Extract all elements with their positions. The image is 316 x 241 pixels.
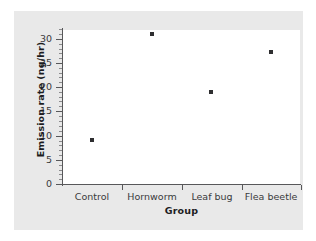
y-minor-tick xyxy=(59,126,62,127)
data-point-hornworm xyxy=(150,32,154,36)
y-minor-tick xyxy=(59,53,62,54)
y-tick-25 xyxy=(56,63,62,64)
x-tick-label-hornworm: Hornworm xyxy=(122,191,182,202)
x-tick-boundary xyxy=(182,185,183,190)
y-minor-tick xyxy=(59,170,62,171)
data-point-control xyxy=(90,138,94,142)
x-tick-label-leaf-bug: Leaf bug xyxy=(182,191,242,202)
y-minor-tick xyxy=(59,49,62,50)
x-tick-boundary xyxy=(301,185,302,190)
y-minor-tick xyxy=(59,101,62,102)
y-tick-20 xyxy=(56,87,62,88)
y-minor-tick xyxy=(59,77,62,78)
y-minor-tick xyxy=(59,82,62,83)
y-minor-tick xyxy=(59,145,62,146)
y-tick-label-0: 0 xyxy=(26,179,52,189)
y-minor-tick xyxy=(59,97,62,98)
plot-area xyxy=(63,30,300,184)
y-minor-tick xyxy=(59,121,62,122)
y-minor-tick xyxy=(59,174,62,175)
y-minor-tick xyxy=(59,131,62,132)
x-tick-boundary xyxy=(242,185,243,190)
y-minor-tick xyxy=(59,106,62,107)
x-axis-title: Group xyxy=(62,205,301,216)
y-tick-0 xyxy=(56,184,62,185)
y-minor-tick xyxy=(59,116,62,117)
y-minor-tick xyxy=(59,150,62,151)
x-tick-boundary xyxy=(122,185,123,190)
y-minor-tick xyxy=(59,165,62,166)
y-minor-tick xyxy=(59,141,62,142)
y-minor-tick xyxy=(59,68,62,69)
y-tick-5 xyxy=(56,160,62,161)
y-minor-tick xyxy=(59,34,62,35)
y-axis-line xyxy=(62,28,63,186)
y-tick-30 xyxy=(56,39,62,40)
y-minor-tick xyxy=(59,58,62,59)
y-tick-15 xyxy=(56,111,62,112)
y-axis-title: Emission rate (ng/hr) xyxy=(35,20,46,180)
y-tick-10 xyxy=(56,136,62,137)
y-minor-tick xyxy=(59,44,62,45)
figure-panel: 30 25 20 15 10 5 0 Control Hornworm Leaf… xyxy=(14,11,303,230)
y-minor-tick xyxy=(59,155,62,156)
y-minor-tick xyxy=(59,92,62,93)
y-minor-tick xyxy=(59,179,62,180)
data-point-leaf-bug xyxy=(209,90,213,94)
data-point-flea-beetle xyxy=(269,50,273,54)
x-tick-label-flea-beetle: Flea beetle xyxy=(241,191,301,202)
y-minor-tick xyxy=(59,73,62,74)
y-minor-tick xyxy=(59,29,62,30)
x-tick-label-control: Control xyxy=(62,191,122,202)
